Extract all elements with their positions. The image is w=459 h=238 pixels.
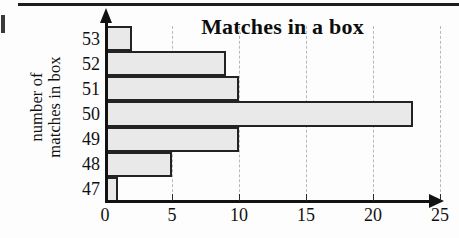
y-tick-label: 48 [70,155,100,173]
y-axis-arrow-icon [100,8,112,23]
x-tick-label: 20 [364,206,382,224]
x-tick-mark [306,194,307,201]
y-axis-label-line-1: number of [28,56,46,157]
x-axis-line [105,200,435,203]
x-axis-tick-labels: 0510152025 [0,206,459,236]
top-rule-divider [18,3,459,6]
x-tick-label: 15 [297,206,315,224]
y-tick-label: 47 [70,180,100,198]
left-edge-mark [1,15,5,33]
gridline [440,26,441,202]
y-axis-line [105,20,108,202]
chart-figure: Matches in a box number of matches in bo… [0,0,459,238]
y-tick-label: 53 [70,30,100,48]
bar [105,26,132,51]
bar [105,101,413,126]
y-axis-label: number of matches in box [20,14,72,199]
x-tick-label: 5 [168,206,177,224]
plot-area [105,26,440,202]
x-tick-mark [172,194,173,201]
bar [105,152,172,177]
x-tick-label: 10 [230,206,248,224]
y-axis-tick-labels: 47484950515253 [66,26,100,202]
x-tick-label: 0 [101,206,110,224]
bar [105,51,226,76]
x-tick-label: 25 [431,206,449,224]
y-axis-label-line-2: matches in box [46,56,64,157]
bar [105,127,239,152]
y-tick-label: 49 [70,130,100,148]
y-tick-label: 51 [70,80,100,98]
x-tick-mark [373,194,374,201]
y-tick-label: 52 [70,55,100,73]
bar [105,76,239,101]
x-tick-mark [440,194,441,201]
x-tick-mark [239,194,240,201]
y-tick-label: 50 [70,105,100,123]
